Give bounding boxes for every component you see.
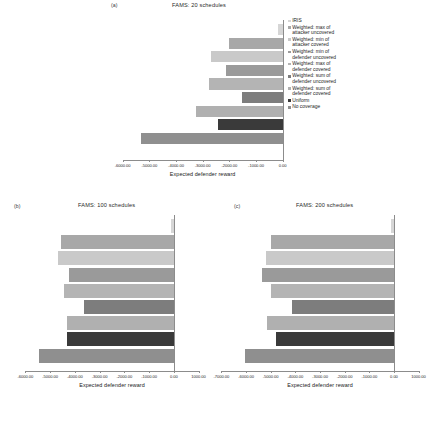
chart-panel-c: (c) FAMS: 200 schedules -7000.00-6000.00… xyxy=(218,200,440,421)
x-tick xyxy=(25,371,26,373)
bar xyxy=(64,284,174,298)
legend: IRISWeighted: max of attacker uncoveredW… xyxy=(288,18,438,111)
x-axis-label-b: Expected defender reward xyxy=(79,382,145,388)
legend-item[interactable]: Weighted: sum of defender uncovered xyxy=(288,73,438,84)
bar xyxy=(84,300,174,314)
legend-item[interactable]: Uniform xyxy=(288,98,438,104)
legend-item-label: Weighted: max of attacker uncovered xyxy=(292,25,334,36)
zero-axis-a xyxy=(283,20,284,160)
legend-item[interactable]: Weighted: min of defender uncovered xyxy=(288,49,438,60)
legend-item[interactable]: Weighted: min of attacker covered xyxy=(288,37,438,48)
x-tick-label: -1000.00 xyxy=(141,374,157,379)
bar xyxy=(218,119,283,130)
x-tick xyxy=(394,371,395,373)
legend-swatch-icon xyxy=(288,26,291,29)
zero-axis-b xyxy=(174,215,175,371)
legend-item[interactable]: Weighted: max of defender covered xyxy=(288,61,438,72)
x-tick xyxy=(203,160,204,162)
x-tick xyxy=(50,371,51,373)
x-tick-label: -3000.00 xyxy=(312,374,328,379)
legend-item-label: Uniform xyxy=(292,98,309,104)
x-tick-label: -5000.00 xyxy=(42,374,58,379)
bar xyxy=(39,349,174,363)
bar xyxy=(267,316,394,330)
chart-panel-b: (b) FAMS: 100 schedules -6000.00-5000.00… xyxy=(0,200,220,421)
x-tick xyxy=(345,371,346,373)
x-tick xyxy=(246,371,247,373)
x-tick xyxy=(295,371,296,373)
x-tick-label: 0.00 xyxy=(279,163,287,168)
legend-item-label: No coverage xyxy=(292,104,320,110)
x-tick xyxy=(221,371,222,373)
legend-item[interactable]: No coverage xyxy=(288,104,438,110)
legend-item-label: Weighted: sum of defender uncovered xyxy=(292,73,336,84)
legend-swatch-icon xyxy=(288,106,291,109)
x-tick xyxy=(271,371,272,373)
bar xyxy=(245,349,394,363)
bar xyxy=(271,284,394,298)
x-tick xyxy=(229,160,230,162)
legend-swatch-icon xyxy=(288,38,291,41)
legend-item-label: Weighted: max of defender covered xyxy=(292,61,330,72)
bar xyxy=(271,235,394,249)
legend-swatch-icon xyxy=(288,75,291,78)
x-tick-label: -7000.00 xyxy=(214,374,230,379)
legend-item[interactable]: IRIS xyxy=(288,18,438,24)
x-tick xyxy=(123,160,124,162)
x-tick xyxy=(174,371,175,373)
bar xyxy=(67,316,173,330)
legend-item-label: Weighted: min of defender uncovered xyxy=(292,49,336,60)
zero-axis-c xyxy=(394,215,395,371)
x-tick xyxy=(256,160,257,162)
x-tick xyxy=(199,371,200,373)
legend-item-label: Weighted: sum of defender covered xyxy=(292,86,330,97)
x-tick xyxy=(124,371,125,373)
x-tick-label: -2000.00 xyxy=(337,374,353,379)
x-tick-label: -2000.00 xyxy=(221,163,237,168)
x-tick xyxy=(75,371,76,373)
legend-item-label: Weighted: min of attacker covered xyxy=(292,37,329,48)
bar xyxy=(242,92,283,103)
bar xyxy=(67,332,173,346)
legend-swatch-icon xyxy=(288,87,291,90)
x-tick-label: 1000.00 xyxy=(411,374,425,379)
legend-item[interactable]: Weighted: sum of defender covered xyxy=(288,86,438,97)
bar xyxy=(196,106,283,117)
legend-swatch-icon xyxy=(288,99,291,102)
x-tick-label: -3000.00 xyxy=(195,163,211,168)
x-axis-label-a: Expected defender reward xyxy=(170,171,236,177)
x-tick-label: -6000.00 xyxy=(18,374,34,379)
bar xyxy=(262,268,394,282)
x-tick-label: -3000.00 xyxy=(92,374,108,379)
bar xyxy=(266,251,394,265)
x-axis-label-c: Expected defender reward xyxy=(287,382,353,388)
bar xyxy=(229,38,283,49)
bar xyxy=(292,300,394,314)
plot-area-c: -7000.00-6000.00-5000.00-4000.00-3000.00… xyxy=(218,200,440,421)
x-tick-label: -1000.00 xyxy=(248,163,264,168)
x-tick-label: -4000.00 xyxy=(168,163,184,168)
x-tick xyxy=(149,371,150,373)
legend-swatch-icon xyxy=(288,63,291,66)
bar xyxy=(209,78,283,89)
bar xyxy=(211,51,283,62)
legend-swatch-icon xyxy=(288,20,291,23)
x-tick-label: -6000.00 xyxy=(115,163,131,168)
bar xyxy=(276,332,394,346)
x-tick-label: 0.00 xyxy=(390,374,398,379)
plot-area-b: -6000.00-5000.00-4000.00-3000.00-2000.00… xyxy=(0,200,220,421)
x-tick-label: -6000.00 xyxy=(238,374,254,379)
x-tick xyxy=(100,371,101,373)
x-tick-label: -5000.00 xyxy=(141,163,157,168)
legend-item[interactable]: Weighted: max of attacker uncovered xyxy=(288,25,438,36)
x-tick-label: 0.00 xyxy=(170,374,178,379)
bar xyxy=(141,133,283,144)
x-tick xyxy=(419,371,420,373)
x-tick-label: -4000.00 xyxy=(287,374,303,379)
x-tick xyxy=(320,371,321,373)
x-tick-label: -2000.00 xyxy=(116,374,132,379)
legend-item-label: IRIS xyxy=(292,18,302,24)
x-tick-label: -4000.00 xyxy=(67,374,83,379)
x-tick-label: 1000.00 xyxy=(191,374,205,379)
legend-swatch-icon xyxy=(288,51,291,54)
